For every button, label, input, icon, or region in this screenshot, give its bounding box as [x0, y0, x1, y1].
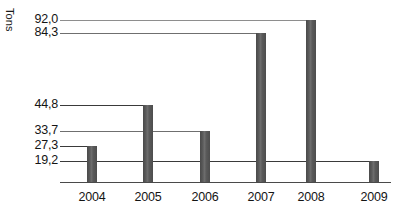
x-label-2008: 2008 — [281, 190, 341, 204]
gridline-84-3 — [60, 33, 266, 34]
tick-label-33-7: 33,7 — [34, 124, 58, 137]
x-label-2005: 2005 — [118, 190, 178, 204]
x-label-2009: 2009 — [344, 190, 404, 204]
bar-2007 — [256, 33, 266, 182]
x-label-2004: 2004 — [62, 190, 122, 204]
x-label-2006: 2006 — [175, 190, 235, 204]
x-axis-line — [60, 182, 391, 183]
bar-2004 — [87, 146, 97, 182]
bar-2008 — [306, 20, 316, 182]
tick-label-84-3: 84,3 — [34, 26, 58, 39]
bar-2009 — [369, 161, 379, 182]
tick-label-44-8: 44,8 — [34, 98, 58, 111]
bar-2006 — [200, 131, 210, 182]
gridline-19-2 — [60, 161, 379, 162]
tick-label-19-2: 19,2 — [34, 154, 58, 167]
gridline-33-7 — [60, 131, 210, 132]
tick-label-27-3: 27,3 — [34, 139, 58, 152]
bar-2005 — [143, 105, 153, 182]
bar-chart: Tons 92,0 84,3 44,8 33,7 27,3 19,2 2004 … — [0, 0, 407, 218]
gridline-92-0 — [60, 20, 316, 21]
gridline-44-8 — [60, 105, 153, 106]
